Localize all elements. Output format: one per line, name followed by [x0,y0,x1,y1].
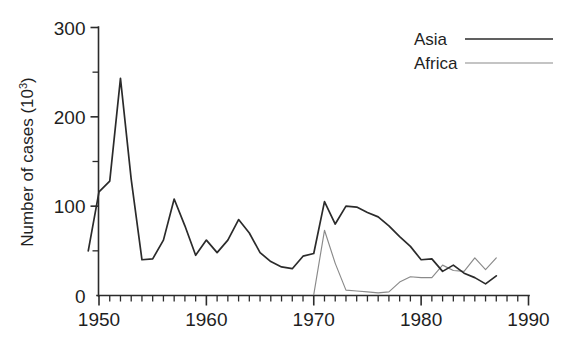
legend-label-asia: Asia [414,30,448,49]
chart-figure: 0100200300 19501960197019801990 Number o… [0,0,577,351]
y-tick-label: 0 [75,286,86,307]
y-tick-label: 200 [54,107,86,128]
y-axis-title: Number of cases (103) [17,77,37,247]
line-chart: 0100200300 19501960197019801990 Number o… [0,0,577,351]
series-line-africa [314,230,497,294]
x-tick-label: 1980 [400,309,442,330]
x-tick-label: 1950 [78,309,120,330]
x-tick-label: 1990 [507,309,549,330]
x-axis: 19501960197019801990 [78,296,550,330]
x-tick-label: 1960 [185,309,227,330]
x-axis-ticks [99,296,529,306]
series-line-asia [88,78,496,283]
y-tick-label: 100 [54,196,86,217]
y-axis-tick-labels: 0100200300 [54,18,86,307]
y-tick-label: 300 [54,18,86,39]
x-tick-label: 1970 [293,309,335,330]
legend: Asia Africa [414,30,553,73]
series-group [88,78,496,294]
legend-label-africa: Africa [414,54,458,73]
x-axis-tick-labels: 19501960197019801990 [78,309,550,330]
y-axis: 0100200300 [54,18,99,307]
